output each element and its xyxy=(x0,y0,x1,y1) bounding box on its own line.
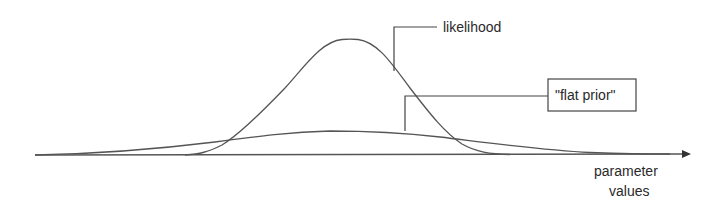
likelihood-label: likelihood xyxy=(443,19,501,35)
x-axis-arrowhead-icon xyxy=(682,150,691,158)
prior-leader-line xyxy=(405,96,548,131)
prior-curve xyxy=(35,131,670,155)
x-axis-line xyxy=(35,154,684,155)
likelihood-leader-line xyxy=(394,27,437,71)
x-axis-label-line1: parameter xyxy=(594,163,658,179)
likelihood-prior-diagram: likelihood "flat prior" parameter values xyxy=(0,0,728,210)
likelihood-curve xyxy=(185,39,510,155)
prior-label: "flat prior" xyxy=(555,87,616,103)
x-axis-label-line2: values xyxy=(609,183,649,199)
